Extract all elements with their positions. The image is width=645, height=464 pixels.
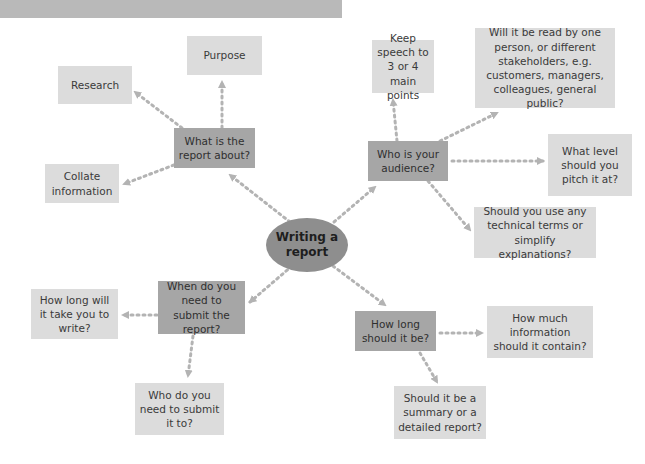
branch-what-is-report-about: What is the report about? [174,128,255,168]
leaf-what-level: What level should you pitch it at? [548,134,632,196]
leaf-how-long-write: How long will it take you to write? [31,289,118,339]
center-node-writing-a-report: Writing a report [266,218,348,272]
leaf-keep-speech: Keep speech to 3 or 4 main points [372,40,434,93]
leaf-purpose: Purpose [187,36,262,75]
leaf-collate-information: Collate information [45,164,119,203]
leaf-summary-or-detailed: Should it be a summary or a detailed rep… [394,386,486,439]
leaf-research: Research [58,66,132,104]
leaf-who-submit-to: Who do you need to submit it to? [135,383,224,435]
leaf-technical-terms: Should you use any technical terms or si… [474,207,596,258]
leaf-how-much-information: How much information should it contain? [487,306,593,358]
leaf-stakeholders: Will it be read by one person, or differ… [475,28,615,108]
branch-when-submit: When do you need to submit the report? [158,281,245,334]
branch-who-is-your-audience: Who is your audience? [368,141,448,181]
branch-how-long-should-it-be: How long should it be? [355,311,436,351]
